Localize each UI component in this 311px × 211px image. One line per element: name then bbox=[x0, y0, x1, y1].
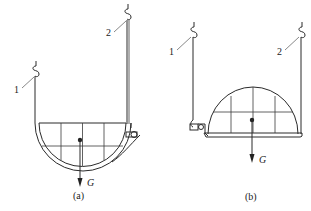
leader-line-1-b bbox=[177, 37, 191, 50]
leader-line-1-a bbox=[22, 77, 34, 88]
hook-1-b bbox=[191, 22, 197, 38]
hook-label-1-a: 1 bbox=[14, 84, 19, 95]
base-rim-b bbox=[204, 133, 302, 137]
leader-line-2-b bbox=[285, 37, 299, 50]
hook-2-a bbox=[125, 4, 131, 20]
arrow-head-icon bbox=[78, 178, 83, 187]
caption-a: (a) bbox=[73, 190, 84, 202]
hook-2-b bbox=[299, 22, 305, 38]
hook-label-2-b: 2 bbox=[277, 46, 282, 57]
clamp-b-bolt bbox=[199, 125, 204, 130]
hook-1-a bbox=[33, 61, 39, 77]
figure-a: 1 2 G (a) bbox=[14, 4, 140, 202]
arrow-head-icon bbox=[250, 154, 255, 163]
leader-line-2-a bbox=[114, 21, 126, 32]
hook-label-1-b: 1 bbox=[169, 46, 174, 57]
weight-label-b: G bbox=[259, 154, 266, 165]
caption-b: (b) bbox=[245, 191, 257, 203]
hook-label-2-a: 2 bbox=[106, 27, 111, 38]
figure-b: 1 2 G (b) bbox=[169, 22, 305, 203]
diagram-canvas: 1 2 G (a) bbox=[0, 0, 311, 211]
weight-label-a: G bbox=[87, 177, 94, 188]
